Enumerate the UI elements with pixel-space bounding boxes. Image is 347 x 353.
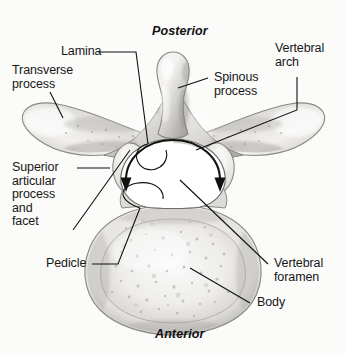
orientation-anterior: Anterior [155,327,204,341]
label-lamina: Lamina [61,45,101,59]
label-body: Body [257,296,285,310]
label-pedicle: Pedicle [46,257,86,271]
spinous-process-shape [157,52,190,139]
vertebral-body-shape [82,196,264,342]
label-transverse-process: Transverse process [12,64,73,91]
label-vertebral-arch: Vertebral arch [275,42,324,69]
orientation-posterior: Posterior [152,24,208,38]
label-vertebral-foramen: Vertebral foramen [274,257,323,284]
vertebral-foramen-shape [121,139,225,209]
label-superior-articular-process-and-facet: Superior articular process and facet [12,161,58,229]
label-spinous-process: Spinous process [214,71,258,98]
